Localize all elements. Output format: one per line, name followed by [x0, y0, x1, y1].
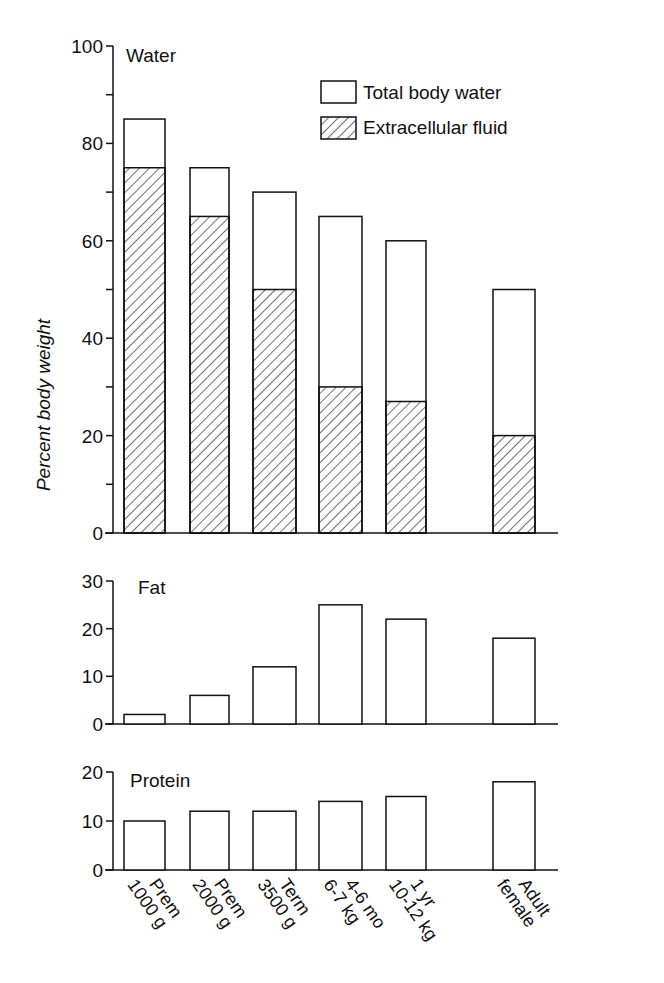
- y-tick-label: 80: [82, 133, 103, 154]
- category-label: 4-6 mo6-7 kg: [320, 865, 390, 943]
- chart-canvas: Percent body weight Water 020406080100 T…: [0, 0, 664, 983]
- category-label: Prem2000 g: [189, 865, 252, 932]
- category-label: 1 yr10-12 kg: [385, 865, 456, 944]
- y-tick-label: 20: [82, 619, 103, 640]
- fat-bars: [124, 605, 535, 724]
- bar: [253, 811, 296, 870]
- protein-panel: Protein 01020: [82, 762, 558, 881]
- category-label: Adultfemale: [493, 865, 555, 931]
- protein-panel-title: Protein: [130, 770, 190, 791]
- bar-extracellular-fluid: [493, 436, 535, 533]
- legend-label-extracellular-fluid: Extracellular fluid: [363, 117, 508, 138]
- fat-panel: Fat 0102030: [82, 571, 558, 735]
- legend-swatch-hatched: [321, 117, 356, 139]
- fat-panel-title: Fat: [138, 577, 166, 598]
- bar-group: [386, 241, 426, 533]
- bar-group: [124, 119, 165, 533]
- y-axis-label: Percent body weight: [33, 318, 54, 491]
- bar-group: [253, 192, 296, 533]
- y-tick-label: 20: [82, 426, 103, 447]
- y-tick-label: 30: [82, 571, 103, 592]
- bar: [190, 811, 229, 870]
- bar: [124, 821, 165, 870]
- legend: Total body water Extracellular fluid: [321, 81, 508, 139]
- bar-group: [493, 290, 535, 534]
- y-tick-label: 60: [82, 231, 103, 252]
- y-tick-label: 0: [92, 523, 103, 544]
- y-tick-label: 100: [71, 36, 103, 57]
- body-composition-chart: Percent body weight Water 020406080100 T…: [0, 0, 664, 983]
- x-axis-category-labels: Prem1000 gPrem2000 gTerm3500 g4-6 mo6-7 …: [124, 865, 556, 944]
- bar: [253, 667, 296, 724]
- bar: [124, 714, 165, 724]
- water-panel-title: Water: [126, 45, 177, 66]
- protein-bars: [124, 782, 535, 870]
- legend-swatch-open: [321, 81, 356, 103]
- y-tick-label: 0: [92, 860, 103, 881]
- legend-item-total-body-water: Total body water: [321, 81, 502, 103]
- bar: [493, 782, 535, 870]
- bar-extracellular-fluid: [190, 216, 229, 533]
- bar: [386, 619, 426, 724]
- y-tick-label: 40: [82, 328, 103, 349]
- bar-extracellular-fluid: [319, 387, 362, 533]
- water-panel: Water 020406080100 Total body water Extr…: [71, 36, 558, 544]
- y-tick-label: 20: [82, 762, 103, 783]
- legend-item-extracellular-fluid: Extracellular fluid: [321, 117, 508, 139]
- category-label: Term3500 g: [254, 865, 317, 932]
- water-bars: [124, 119, 535, 533]
- bar-extracellular-fluid: [386, 402, 426, 533]
- bar: [190, 695, 229, 724]
- bar: [386, 797, 426, 871]
- bar-extracellular-fluid: [253, 290, 296, 534]
- y-tick-label: 10: [82, 666, 103, 687]
- y-tick-label: 0: [92, 714, 103, 735]
- bar: [319, 605, 362, 724]
- bar: [493, 638, 535, 724]
- legend-label-total-body-water: Total body water: [363, 82, 502, 103]
- y-tick-label: 10: [82, 811, 103, 832]
- bar: [319, 801, 362, 870]
- category-label: Prem1000 g: [124, 865, 187, 932]
- bar-group: [190, 168, 229, 533]
- bar-group: [319, 216, 362, 533]
- bar-extracellular-fluid: [124, 168, 165, 533]
